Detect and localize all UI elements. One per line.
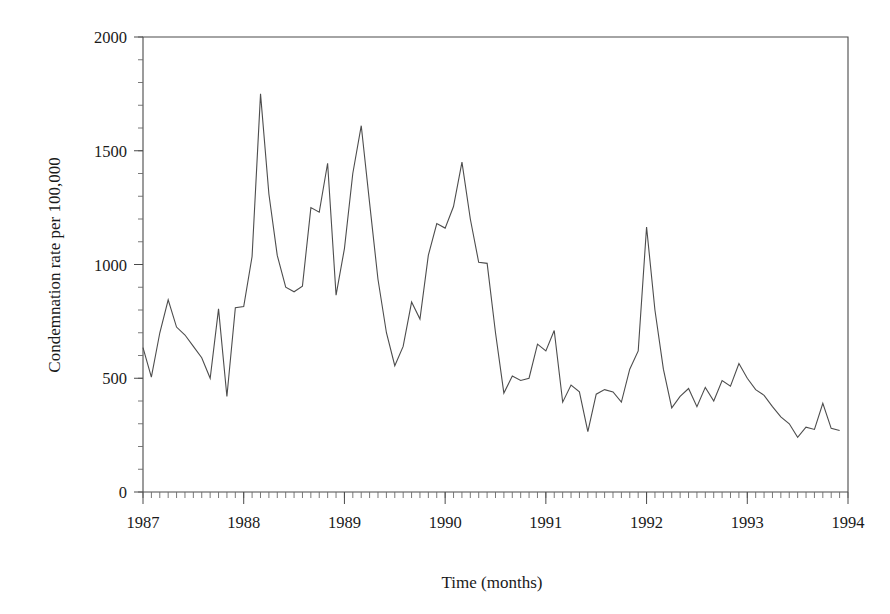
x-axis-title: Time (months) (442, 573, 543, 592)
y-axis-tick-label: 0 (119, 483, 127, 502)
x-axis-tick-label: 1987 (127, 513, 160, 532)
y-axis-title: Condemnation rate per 100,000 (45, 157, 64, 372)
x-axis-tick-label: 1994 (832, 513, 865, 532)
x-axis-tick-label: 1989 (328, 513, 361, 532)
x-axis-tick-label: 1992 (630, 513, 663, 532)
y-axis-tick-label: 500 (102, 369, 127, 388)
y-axis-tick-label: 1500 (94, 142, 127, 161)
data-series-group (143, 94, 840, 438)
series-line-0 (143, 94, 840, 438)
y-axis-tick-labels: 0500100015002000 (94, 28, 127, 502)
x-axis-tick-label: 1991 (529, 513, 562, 532)
x-axis-tick-label: 1993 (731, 513, 764, 532)
x-axis-minor-ticks (143, 492, 848, 498)
line-chart: 0500100015002000 19871988198919901991199… (0, 0, 890, 614)
x-axis-tick-labels: 19871988198919901991199219931994 (127, 513, 865, 532)
y-axis-tick-label: 2000 (94, 28, 127, 47)
y-axis-tick-label: 1000 (94, 256, 127, 275)
x-axis-tick-label: 1990 (429, 513, 462, 532)
plot-frame (143, 37, 848, 492)
x-axis-tick-label: 1988 (227, 513, 260, 532)
chart-figure: 0500100015002000 19871988198919901991199… (0, 0, 890, 614)
